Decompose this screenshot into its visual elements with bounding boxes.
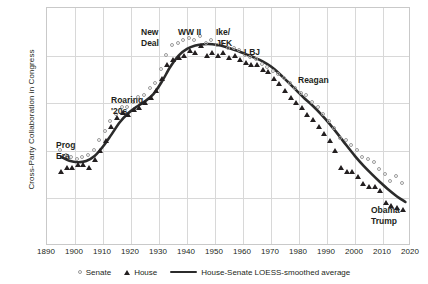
annotation-line: LBJ xyxy=(244,47,260,58)
house-data-point xyxy=(97,148,103,153)
filled-triangle-icon xyxy=(124,270,130,275)
senate-data-point xyxy=(92,148,96,152)
house-data-point xyxy=(332,148,338,153)
senate-data-point xyxy=(344,138,348,142)
legend-label-trend: House-Senate LOESS-smoothed average xyxy=(201,268,350,277)
senate-data-point xyxy=(288,81,292,85)
house-data-point xyxy=(282,88,288,93)
annotation-line: Prog xyxy=(56,140,75,151)
senate-data-point xyxy=(377,167,381,171)
senate-data-point xyxy=(176,41,180,45)
x-tick-label-1890: 1890 xyxy=(37,247,55,256)
senate-data-point xyxy=(103,129,107,133)
x-tick-label-1920: 1920 xyxy=(121,247,139,256)
annotation-line: Deal xyxy=(141,38,159,49)
plot-area: ProgEraRoaring'20sNewDealWW IIIke/JFKLBJ… xyxy=(46,7,410,245)
house-data-point xyxy=(310,117,316,122)
annotation-line: Obama xyxy=(371,205,400,216)
senate-data-point xyxy=(338,136,342,140)
house-data-point xyxy=(355,174,361,179)
legend-item-house: House xyxy=(124,268,157,277)
house-data-point xyxy=(198,43,204,48)
annotation-line: Reagan xyxy=(298,75,329,86)
annotation-line: Ike/ xyxy=(216,27,232,38)
annotation-new-deal: NewDeal xyxy=(141,27,159,48)
x-tick-label-1990: 1990 xyxy=(317,247,335,256)
senate-data-point xyxy=(86,153,90,157)
senate-data-point xyxy=(394,174,398,178)
senate-data-point xyxy=(299,91,303,95)
annotation-reagan: Reagan xyxy=(298,75,329,86)
senate-data-point xyxy=(383,172,387,176)
house-data-point xyxy=(400,207,406,212)
house-data-point xyxy=(181,53,187,58)
legend-label-senate: Senate xyxy=(86,268,111,277)
house-data-point xyxy=(58,169,64,174)
x-tick-label-2000: 2000 xyxy=(345,247,363,256)
x-axis-tick-labels: 1890190019101920193019401950196019701980… xyxy=(0,247,428,261)
x-tick-label-1970: 1970 xyxy=(261,247,279,256)
x-tick-label-1950: 1950 xyxy=(205,247,223,256)
senate-data-point xyxy=(237,48,241,52)
senate-data-point xyxy=(232,46,236,50)
annotation-line: '20s xyxy=(111,106,143,117)
house-data-point xyxy=(192,50,198,55)
line-swatch-icon xyxy=(170,271,197,274)
house-data-point xyxy=(159,76,165,81)
senate-data-point xyxy=(400,181,404,185)
x-tick-label-1910: 1910 xyxy=(93,247,111,256)
loess-trend-path xyxy=(61,44,405,202)
annotation-obama: Obama xyxy=(371,205,400,216)
x-tick-label-2010: 2010 xyxy=(373,247,391,256)
senate-data-point xyxy=(327,119,331,123)
x-tick-label-1980: 1980 xyxy=(289,247,307,256)
annotation-ike-jfk: Ike/JFK xyxy=(216,27,232,48)
legend-item-senate: Senate xyxy=(78,268,111,277)
annotation-roaring-twenties: Roaring'20s xyxy=(111,95,143,116)
annotation-line: WW II xyxy=(178,27,201,38)
chart-legend: Senate House House-Senate LOESS-smoothed… xyxy=(0,264,428,280)
x-tick-label-1960: 1960 xyxy=(233,247,251,256)
annotation-line: Roaring xyxy=(111,95,143,106)
house-data-point xyxy=(327,138,333,143)
house-data-point xyxy=(321,131,327,136)
senate-data-point xyxy=(265,65,269,69)
house-data-point xyxy=(86,165,92,170)
house-data-point xyxy=(103,138,109,143)
house-data-point xyxy=(153,88,159,93)
y-axis-title: Cross-Party Collaboration in Congress xyxy=(27,0,36,240)
senate-data-point xyxy=(159,67,163,71)
house-data-point xyxy=(265,69,271,74)
senate-data-point xyxy=(372,160,376,164)
annotation-trump: Trump xyxy=(371,216,397,227)
house-data-point xyxy=(316,124,322,129)
annotation-world-war-two: WW II xyxy=(178,27,201,38)
house-data-point xyxy=(299,105,305,110)
senate-data-point xyxy=(148,86,152,90)
senate-data-point xyxy=(316,105,320,109)
annotation-line: JFK xyxy=(216,38,232,49)
annotation-line: Trump xyxy=(371,216,397,227)
legend-label-house: House xyxy=(134,268,157,277)
senate-data-point xyxy=(260,62,264,66)
house-data-point xyxy=(108,124,114,129)
annotation-progressive-era: ProgEra xyxy=(56,140,75,161)
house-data-point xyxy=(276,81,282,86)
house-data-point xyxy=(377,188,383,193)
senate-data-point xyxy=(204,41,208,45)
annotation-line: Era xyxy=(56,151,75,162)
house-data-point xyxy=(148,95,154,100)
x-tick-label-1900: 1900 xyxy=(65,247,83,256)
chart-container: Cross-Party Collaboration in Congress Pr… xyxy=(0,0,428,284)
x-tick-label-1930: 1930 xyxy=(149,247,167,256)
house-data-point xyxy=(164,62,170,67)
annotation-lbj: LBJ xyxy=(244,47,260,58)
x-tick-label-2020: 2020 xyxy=(401,247,419,256)
house-data-point xyxy=(92,157,98,162)
open-circle-icon xyxy=(78,270,82,274)
senate-data-point xyxy=(355,148,359,152)
x-tick-label-1940: 1940 xyxy=(177,247,195,256)
legend-item-trend: House-Senate LOESS-smoothed average xyxy=(170,268,350,277)
annotation-line: New xyxy=(141,27,159,38)
